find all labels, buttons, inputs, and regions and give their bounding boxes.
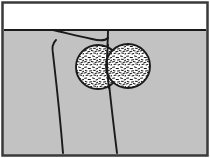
cross-section-drawing <box>0 0 210 158</box>
figure-container: Geological cross-section sketch air / vo… <box>0 0 210 158</box>
inclusion-right <box>106 44 150 88</box>
